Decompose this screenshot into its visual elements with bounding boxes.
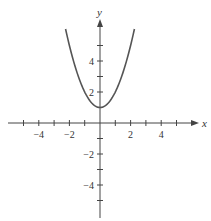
y-tick-label: 4	[89, 56, 94, 67]
coordinate-plane: −4−224 42−2−4 x y	[0, 0, 211, 221]
y-tick-label: −2	[83, 149, 94, 160]
x-tick-label: 4	[159, 129, 164, 140]
x-tick-label: −4	[33, 129, 44, 140]
y-tick-label: −4	[83, 180, 94, 191]
x-axis-label: x	[201, 117, 207, 129]
y-tick-label: 2	[89, 87, 94, 98]
x-tick-label: −2	[64, 129, 75, 140]
x-axis-arrow-icon	[191, 120, 199, 126]
x-tick-label: 2	[128, 129, 133, 140]
y-axis-label: y	[96, 6, 102, 18]
y-axis-arrow-icon	[97, 19, 103, 27]
